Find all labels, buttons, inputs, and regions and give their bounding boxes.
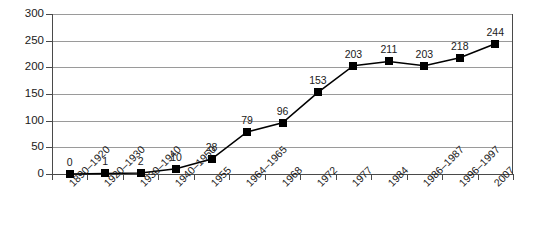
y-axis-tick-label: 0 [4,168,44,179]
data-point-marker [420,62,428,70]
x-axis-tick [52,174,53,180]
data-point-label: 218 [451,41,469,51]
data-point-marker [243,128,251,136]
data-point-marker [172,165,180,173]
data-point-label: 96 [277,106,289,116]
y-axis-tick-label: 300 [4,8,44,19]
data-point-marker [456,54,464,62]
data-point-label: 211 [381,44,398,54]
data-point-label: 244 [487,27,505,37]
data-point-label: 203 [345,49,363,59]
data-point-label: 203 [416,49,434,59]
data-point-label: 0 [67,157,73,167]
data-point-marker [314,88,322,96]
y-axis-tick-label: 50 [4,141,44,152]
data-point-marker [349,62,357,70]
line-chart: 050100150200250300 012102879961532032112… [0,0,536,251]
y-axis-tick-label: 100 [4,115,44,126]
data-point-marker [385,57,393,65]
y-axis-tick-label: 200 [4,61,44,72]
data-point-label: 79 [241,115,253,125]
data-point-label: 153 [309,75,327,85]
data-point-marker [279,119,287,127]
y-axis-tick-label: 250 [4,35,44,46]
y-axis-tick-label: 150 [4,88,44,99]
y-axis-labels: 050100150200250300 [0,0,44,251]
data-point-marker [491,40,499,48]
